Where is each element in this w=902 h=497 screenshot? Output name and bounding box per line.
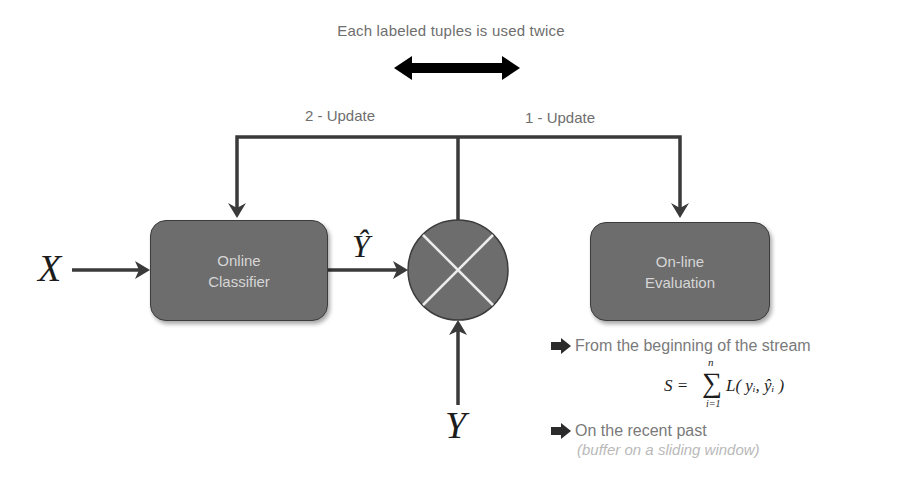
formula-upper-limit: n	[708, 356, 714, 368]
bullet-text: From the beginning of the stream	[575, 337, 811, 355]
bullet-text: On the recent past	[575, 422, 707, 440]
formula-lower-limit: i=1	[706, 398, 721, 409]
label-arrow	[449, 320, 467, 405]
right-arrow-icon	[550, 423, 572, 439]
online-classifier-box: Online Classifier	[150, 220, 328, 321]
caption-text: Each labeled tuples is used twice	[0, 22, 902, 39]
loss-sum-formula: S = ∑ n i=1 L( yᵢ, ŷᵢ )	[664, 364, 814, 414]
evaluation-label-line1: On-line	[656, 251, 704, 272]
online-evaluation-box: On-line Evaluation	[590, 222, 770, 321]
right-arrow-icon	[550, 338, 572, 354]
update-label-1: 1 - Update	[525, 109, 595, 126]
prediction-variable-yhat: Ŷ	[352, 228, 370, 264]
true-label-variable-y: Y	[445, 405, 466, 445]
comparator-circle	[408, 220, 508, 320]
classifier-label-line2: Classifier	[208, 271, 270, 292]
input-arrow	[72, 261, 150, 279]
update-bus	[237, 137, 680, 220]
evaluation-label-line2: Evaluation	[645, 272, 715, 293]
formula-lhs: S =	[664, 376, 688, 396]
bullet-from-beginning: From the beginning of the stream	[550, 337, 811, 355]
bullet-recent-past: On the recent past	[550, 422, 707, 440]
bullet-subtext: (buffer on a sliding window)	[577, 441, 760, 458]
classifier-label-line1: Online	[217, 250, 260, 271]
input-variable-x: X	[38, 248, 61, 288]
formula-body: L( yᵢ, ŷᵢ )	[726, 376, 784, 396]
double-arrow-icon	[394, 56, 520, 80]
formula-sum-symbol: ∑	[702, 368, 722, 398]
update-label-2: 2 - Update	[305, 107, 375, 124]
